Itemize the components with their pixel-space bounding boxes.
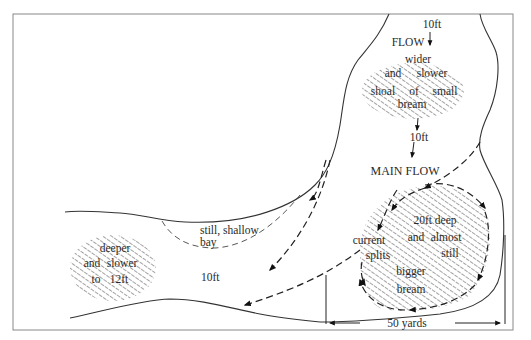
top-shoal-and: and [385,67,402,79]
scale-label: 50 yards [387,317,427,330]
top-shoal-of: of [409,85,419,97]
deep-hole-still: still [441,247,458,259]
left-hole-12ft: 12ft [110,273,129,285]
depth-left-label: 10ft [201,271,220,283]
top-shoal-small: small [433,85,458,97]
deep-hole-and: and [408,231,425,243]
top-shoal-shoal: shoal [371,85,395,97]
deep-hole-20ft: 20ft deep [413,214,456,227]
river-diagram: 50 yards 10ft FLOW wider and slower shoa… [0,0,531,340]
left-hole-to: to [92,273,101,285]
top-shoal-bream: bream [398,98,427,110]
bay-label-line2: bay [200,236,217,249]
main-flow-label: MAIN FLOW [371,164,441,178]
deep-hole-bigger: bigger [396,265,426,278]
depth-mid-label: 10ft [410,131,429,143]
deep-hole-bream: bream [397,283,426,295]
deep-hole-almost: almost [431,231,462,243]
left-hole-slower: slower [107,257,138,269]
top-shoal-wider: wider [405,53,431,65]
depth-top-label: 10ft [423,18,442,30]
current-splits-current: current [353,234,386,246]
left-hole-and: and [84,257,101,269]
left-hole-deeper: deeper [100,242,131,255]
current-splits-splits: splits [366,249,391,262]
flow-top-label: FLOW [392,36,425,48]
top-shoal-slower: slower [417,67,448,79]
